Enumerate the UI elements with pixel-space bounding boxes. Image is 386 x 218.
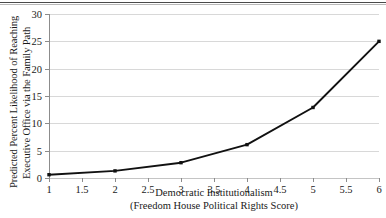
x-tick-mark-1.5 [82, 178, 83, 182]
data-point-x-3 [179, 161, 182, 164]
data-point-x-2 [113, 169, 116, 172]
y-tick-label-0: 0 [37, 173, 42, 184]
page-top-rule-secondary [0, 4, 386, 5]
page-top-rule [0, 2, 386, 3]
series-markers [47, 40, 380, 177]
x-tick-mark-1 [49, 178, 50, 182]
y-tick-label-10: 10 [32, 118, 43, 129]
plot-area: 051015202530 11.522.533.544.555.56 [49, 14, 379, 177]
y-axis-title-line1: Predicted Percent Likelihood of Reaching [8, 18, 21, 188]
x-tick-mark-4.5 [280, 178, 281, 182]
x-tick-mark-5.5 [346, 178, 347, 182]
x-tick-mark-4 [247, 178, 248, 182]
data-point-x-5 [311, 106, 314, 109]
series-polyline [49, 41, 379, 174]
data-point-x-4 [245, 143, 248, 146]
data-point-x-6 [377, 40, 380, 43]
x-axis-title: Democratic Institutionalism (Freedom Hou… [49, 186, 379, 212]
y-tick-label-5: 5 [37, 145, 42, 156]
y-tick-label-25: 25 [32, 36, 43, 47]
y-tick-label-30: 30 [32, 9, 43, 20]
x-tick-mark-5 [313, 178, 314, 182]
x-axis-title-line1: Democratic Institutionalism [49, 186, 379, 199]
series-line-predicted-likelihood [49, 14, 379, 178]
y-tick-label-15: 15 [32, 91, 43, 102]
data-point-x-1 [47, 173, 50, 176]
y-tick-label-20: 20 [32, 63, 43, 74]
x-tick-mark-2 [115, 178, 116, 182]
x-tick-mark-6 [379, 178, 380, 182]
chart-figure: Predicted Percent Likelihood of Reaching… [0, 0, 386, 218]
x-tick-mark-2.5 [148, 178, 149, 182]
x-axis-title-line2: (Freedom House Political Rights Score) [49, 199, 379, 212]
x-tick-mark-3.5 [214, 178, 215, 182]
x-tick-mark-3 [181, 178, 182, 182]
